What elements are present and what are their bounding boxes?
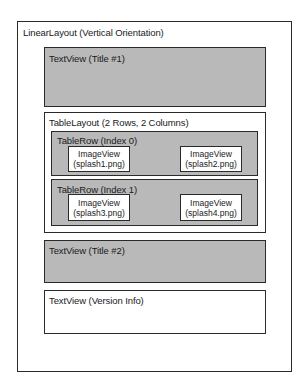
- imageview-splash2: ImageView (splash2.png): [180, 146, 242, 172]
- imageview-file: (splash4.png): [185, 208, 237, 218]
- imageview-type: ImageView: [190, 198, 232, 208]
- imageview-type: ImageView: [78, 149, 120, 159]
- imageview-splash4: ImageView (splash4.png): [180, 194, 242, 221]
- textview-title-2-label: TextView (Title #2): [49, 245, 125, 256]
- textview-version-info-label: TextView (Version Info): [49, 295, 144, 306]
- table-layout-label: TableLayout (2 Rows, 2 Columns): [49, 117, 188, 128]
- imageview-type: ImageView: [78, 198, 120, 208]
- table-row-0-label: TableRow (Index 0): [57, 135, 137, 146]
- imageview-file: (splash2.png): [185, 159, 237, 169]
- imageview-splash3: ImageView (splash3.png): [68, 194, 130, 221]
- imageview-type: ImageView: [190, 149, 232, 159]
- textview-title-1-label: TextView (Title #1): [49, 53, 125, 64]
- linear-layout-label: LinearLayout (Vertical Orientation): [23, 27, 164, 38]
- imageview-file: (splash3.png): [73, 208, 125, 218]
- imageview-file: (splash1.png): [73, 159, 125, 169]
- imageview-splash1: ImageView (splash1.png): [68, 146, 130, 172]
